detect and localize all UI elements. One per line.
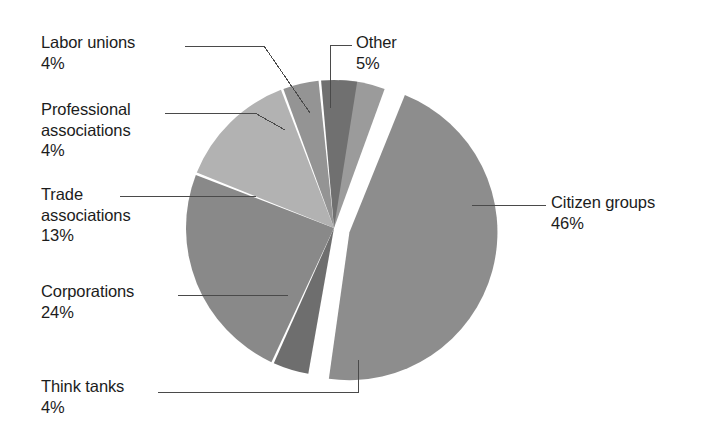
callout-label-think-tanks: Think tanks <box>41 376 124 397</box>
pie-slices <box>186 80 497 380</box>
callout-value-other: 5% <box>356 53 397 74</box>
callout-value-think-tanks: 4% <box>41 397 124 418</box>
callout-value-trade-associations: 13% <box>41 225 131 246</box>
callout-value-citizen-groups: 46% <box>551 213 655 234</box>
callout-label-other: Other <box>356 32 397 53</box>
callout-corporations: Corporations 24% <box>41 281 134 322</box>
leader-line-think-tanks <box>158 360 358 392</box>
callout-citizen-groups: Citizen groups 46% <box>551 192 655 233</box>
callout-label-professional-associations-line1: Professional <box>41 99 131 120</box>
callout-label-citizen-groups: Citizen groups <box>551 192 655 213</box>
pie-chart-figure: Labor unions 4% Professional association… <box>0 0 709 446</box>
callout-label-professional-associations-line2: associations <box>41 120 131 141</box>
callout-label-trade-associations-line2: associations <box>41 205 131 226</box>
callout-value-corporations: 24% <box>41 302 134 323</box>
callout-value-professional-associations: 4% <box>41 140 131 161</box>
callout-other: Other 5% <box>356 32 397 73</box>
callout-label-labor-unions: Labor unions <box>41 32 135 53</box>
callout-label-trade-associations-line1: Trade <box>41 184 131 205</box>
callout-think-tanks: Think tanks 4% <box>41 376 124 417</box>
callout-professional-associations: Professional associations 4% <box>41 99 131 161</box>
callout-trade-associations: Trade associations 13% <box>41 184 131 246</box>
callout-label-corporations: Corporations <box>41 281 134 302</box>
callout-value-labor-unions: 4% <box>41 53 135 74</box>
callout-labor-unions: Labor unions 4% <box>41 32 135 73</box>
